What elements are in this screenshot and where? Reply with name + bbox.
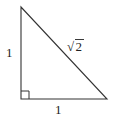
left-side-label: 1 [6, 45, 13, 60]
radical-symbol: √ [67, 39, 75, 54]
hypotenuse-label: √ 2 [67, 39, 84, 54]
triangle [21, 7, 107, 99]
hypotenuse-radicand: 2 [76, 39, 83, 54]
right-triangle-diagram: 1 1 √ 2 [0, 0, 114, 120]
bottom-side-label: 1 [55, 102, 62, 117]
right-angle-marker [21, 91, 29, 99]
